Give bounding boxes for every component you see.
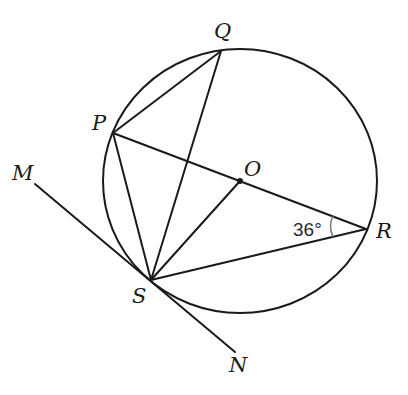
segment-pq xyxy=(113,51,221,133)
angle-label-36: 36° xyxy=(293,219,322,240)
label-n: N xyxy=(228,353,248,377)
label-s: S xyxy=(132,284,146,308)
angle-arc-r xyxy=(331,216,334,237)
segment-os xyxy=(151,181,240,280)
segment-sr xyxy=(151,229,366,280)
segment-qs xyxy=(151,51,221,280)
label-m: M xyxy=(11,161,34,185)
center-point-o xyxy=(237,178,243,184)
label-o: O xyxy=(244,157,261,181)
label-r: R xyxy=(375,219,392,243)
circle-geometry-diagram: 36° Q P O R S M N xyxy=(0,0,408,395)
label-q: Q xyxy=(214,19,231,43)
segment-ps xyxy=(113,133,151,280)
label-p: P xyxy=(91,111,107,135)
